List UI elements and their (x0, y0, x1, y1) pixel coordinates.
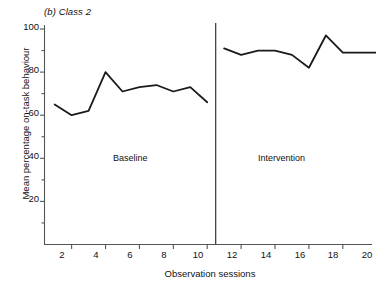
data-line-intervention (224, 35, 376, 67)
axes-group (40, 25, 376, 249)
chart-figure: (b) Class 2 Mean percentage on-task beha… (0, 0, 376, 290)
x-tick-marks (72, 245, 376, 250)
data-line-baseline (55, 72, 208, 115)
y-tick-marks (40, 29, 45, 223)
chart-plot-area (0, 0, 376, 290)
